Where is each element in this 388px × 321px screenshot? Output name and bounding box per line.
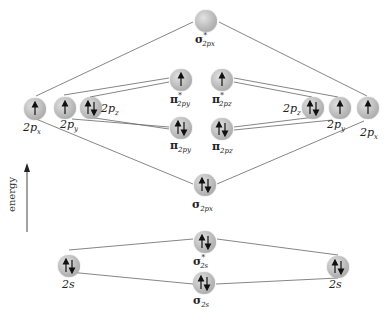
energy-axis-label: energy [6, 177, 17, 212]
orbital-pi-2pz [211, 118, 233, 140]
orbital-pi-2py [170, 117, 192, 139]
label-left-2s: 2s [62, 279, 75, 290]
label-right-2pz: 2pz [283, 103, 301, 117]
orbital-left-2pz [80, 97, 102, 119]
label-pi-star-2pz: π*2pz [212, 92, 232, 108]
label-left-2px: 2px [23, 122, 41, 136]
label-pi-2py: π2py [170, 140, 191, 154]
label-left-2pz: 2pz [101, 103, 119, 117]
orbital-sigma-star-2px [195, 10, 217, 32]
label-pi-2pz: π2pz [212, 141, 233, 155]
orbital-sigma-2s [193, 272, 215, 294]
orbital-right-2py [329, 97, 351, 119]
orbital-left-2s [58, 255, 80, 277]
orbital-pi-star-2pz [211, 69, 233, 91]
orbital-right-2px [357, 97, 379, 119]
orbital-left-2px [24, 98, 46, 120]
orbital-left-2py [54, 97, 76, 119]
orbital-sigma-star-2s [194, 231, 216, 253]
energy-arrowhead-icon [24, 163, 30, 172]
label-right-2s: 2s [329, 279, 342, 290]
orbital-right-2pz [302, 97, 324, 119]
label-sigma-star-2px: σ*2px [195, 32, 215, 48]
orbital-sigma-2px [194, 174, 216, 196]
label-pi-star-2py: π*2py [170, 92, 190, 108]
label-sigma-2s: σ2s [193, 295, 209, 309]
label-right-2px: 2px [360, 127, 378, 141]
label-sigma-star-2s: σ*2s [193, 254, 208, 270]
orbital-pi-star-2py [170, 69, 192, 91]
orbital-right-2s [327, 256, 349, 278]
label-left-2py: 2py [60, 119, 78, 133]
mo-diagram: energy σ*2px 2px 2py 2pz π*2py π2py π*2p… [0, 0, 388, 321]
label-right-2py: 2py [327, 119, 345, 133]
label-sigma-2px: σ2px [192, 199, 213, 213]
